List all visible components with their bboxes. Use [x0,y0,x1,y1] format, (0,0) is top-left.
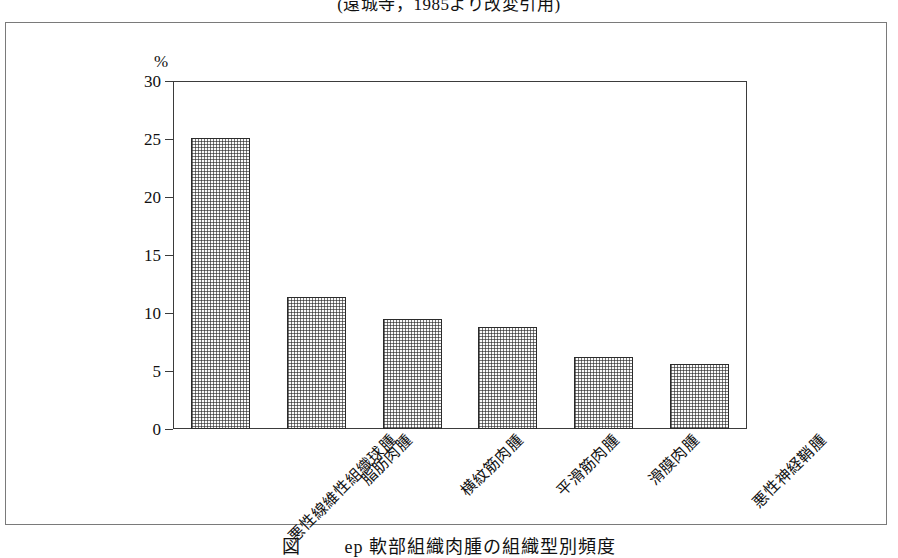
bar [191,138,250,429]
y-axis-unit-label: % [154,53,168,70]
y-axis-tick-mark [165,81,173,82]
y-axis-tick-mark [165,371,173,372]
y-axis-tick-mark [165,313,173,314]
bar [574,357,633,429]
y-axis-tick-label: 10 [117,305,161,322]
x-axis-category-labels: 悪性線維性組織球腫脂肪肉腫横紋筋肉腫平滑筋肉腫滑膜肉腫悪性神経鞘腫 [173,429,773,549]
y-axis-tick-label: 25 [117,131,161,148]
x-axis-category-label: 横紋筋肉腫 [458,431,527,500]
source-caption: (遠城寺，1985より改変引用) [0,0,898,15]
bar [478,327,537,429]
x-axis-category-label: 悪性線維性組織球腫 [285,431,399,545]
x-axis-category-label: 悪性神経鞘腫 [749,431,829,511]
figure-frame: % 051015202530 悪性線維性組織球腫脂肪肉腫横紋筋肉腫平滑筋肉腫滑膜… [5,22,887,525]
x-axis-category-label: 滑膜肉腫 [644,431,701,488]
bar [383,319,442,429]
y-axis-tick-mark [165,429,173,430]
y-axis-tick-label: 15 [117,247,161,264]
y-axis-tick-label: 0 [117,421,161,438]
y-axis-tick-label: 30 [117,73,161,90]
y-axis-tick-mark [165,197,173,198]
y-axis-tick-labels: 051015202530 [111,81,161,429]
bar [670,364,729,429]
x-axis-category-label: 平滑筋肉腫 [553,431,622,500]
y-axis-tick-label: 5 [117,363,161,380]
figure-caption: 図 ер 軟部組織肉腫の組織型別頻度 [0,532,898,558]
y-axis-tick-label: 20 [117,189,161,206]
y-axis-tick-mark [165,255,173,256]
y-axis-tick-mark [165,139,173,140]
bar-series [173,81,747,429]
bar [287,297,346,429]
